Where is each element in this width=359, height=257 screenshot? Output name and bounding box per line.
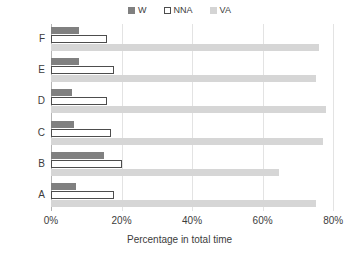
bar-group-a [51,183,342,207]
bar-w-f [51,27,79,34]
bar-w-b [51,152,104,159]
bar-nna-a [51,191,114,199]
bar-va-e [51,75,316,82]
x-tick-label-60: 60% [243,216,283,226]
y-tick-label-c: C [25,128,45,138]
bar-nna-e [51,66,114,74]
legend-item-w: W [128,6,147,15]
x-axis-title: Percentage in total time [0,235,359,245]
bar-w-d [51,89,72,96]
bar-va-a [51,200,316,207]
bar-nna-b [51,160,122,168]
legend-item-va: VA [210,6,231,15]
bar-chart: W NNA VA System F E D C B A 0% 20% 40% 6… [0,0,359,257]
legend-swatch-nna-icon [164,7,171,14]
bar-nna-c [51,129,111,137]
legend-swatch-va-icon [210,7,217,14]
x-tick-label-0: 0% [31,216,71,226]
x-tick-label-40: 40% [172,216,212,226]
legend-label-nna: NNA [174,6,193,15]
bar-group-b [51,152,342,176]
chart-legend: W NNA VA [0,6,359,15]
plot-area [51,24,342,211]
bar-group-d [51,89,342,113]
bar-nna-d [51,97,107,105]
bar-w-c [51,121,74,128]
legend-item-nna: NNA [164,6,193,15]
bar-nna-f [51,35,107,43]
y-tick-label-b: B [25,159,45,169]
bar-va-f [51,44,319,51]
legend-label-w: W [138,6,147,15]
y-tick-label-a: A [25,190,45,200]
x-tick-label-80: 80% [313,216,353,226]
bar-va-b [51,169,279,176]
x-tick-label-20: 20% [102,216,142,226]
bar-w-a [51,183,76,190]
legend-swatch-w-icon [128,7,135,14]
bar-va-c [51,138,323,145]
bar-group-e [51,58,342,82]
bar-va-d [51,106,326,113]
bar-group-f [51,27,342,51]
legend-label-va: VA [220,6,231,15]
y-tick-label-e: E [25,65,45,75]
y-tick-label-f: F [25,34,45,44]
bar-group-c [51,121,342,145]
bar-w-e [51,58,79,65]
y-tick-label-d: D [25,96,45,106]
